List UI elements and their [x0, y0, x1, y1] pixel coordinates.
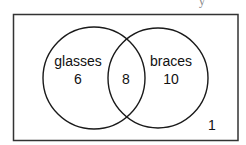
- braces-label: braces: [145, 53, 197, 69]
- outside-count: 1: [205, 117, 219, 133]
- braces-only-count: 10: [153, 71, 189, 87]
- glasses-only-count: 6: [60, 71, 96, 87]
- glasses-label: glasses: [50, 53, 106, 69]
- intersection-count: 8: [116, 71, 136, 87]
